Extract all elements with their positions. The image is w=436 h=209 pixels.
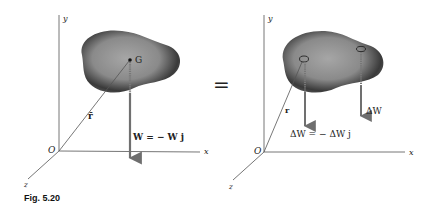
x-axis-label: x (409, 148, 414, 157)
element-weight-label: ΔW (366, 106, 382, 116)
position-vector-label: r (285, 105, 290, 115)
rigid-body-blob (283, 31, 384, 93)
z-axis (28, 151, 59, 179)
element-weight-eq-label: ΔW = − ΔW j (290, 129, 351, 139)
figure-canvas: y x z O G r̄ W = − W j = y x z O r ΔW ΔW… (0, 0, 436, 209)
y-axis-label: y (267, 14, 273, 23)
equals-sign: = (213, 73, 230, 97)
position-vector-label: r̄ (88, 111, 93, 121)
z-axis (233, 152, 264, 180)
x-axis-label: x (204, 147, 209, 156)
center-of-gravity-label: G (135, 55, 142, 65)
origin-label: O (48, 145, 56, 155)
weight-label: W = − W j (132, 132, 184, 142)
y-axis-label: y (62, 14, 68, 23)
right-diagram: y x z O r ΔW ΔW = − ΔW j (228, 14, 414, 191)
figure-caption: Fig. 5.20 (24, 193, 60, 203)
origin-label: O (254, 146, 262, 156)
center-of-gravity-point (128, 58, 132, 62)
left-diagram: y x z O G r̄ W = − W j (23, 14, 209, 189)
z-axis-label: z (23, 181, 28, 189)
z-axis-label: z (228, 183, 233, 191)
